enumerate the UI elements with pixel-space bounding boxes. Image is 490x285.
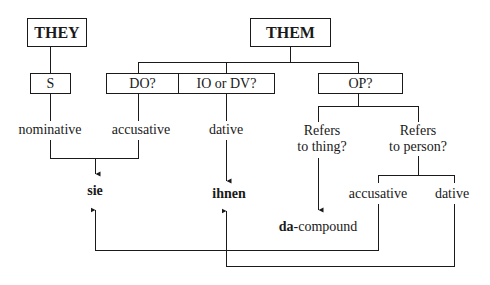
object-of-preposition-node: OP?	[319, 74, 403, 94]
da-suffix: -compound	[294, 219, 358, 234]
subject-label: S	[47, 76, 55, 91]
refers-thing-line1: Refers	[304, 123, 341, 138]
nominative-label: nominative	[19, 122, 82, 137]
ihnen-label: ihnen	[212, 186, 246, 201]
dative-label: dative	[209, 122, 243, 137]
they-label: THEY	[34, 24, 80, 41]
da-compound-label: da-compound	[279, 219, 358, 234]
person-dative-to-ihnen-arrow	[227, 204, 455, 267]
subject-node: S	[31, 74, 71, 94]
accusative-label: accusative	[112, 122, 170, 137]
dative-person-label: dative	[435, 186, 469, 201]
da-prefix: da	[279, 219, 294, 234]
direct-object-node: DO?	[107, 74, 179, 94]
object-of-preposition-label: OP?	[348, 76, 372, 91]
indirect-object-label: IO or DV?	[197, 76, 257, 91]
refers-person-line1: Refers	[400, 123, 437, 138]
indirect-object-node: IO or DV?	[179, 74, 275, 94]
refers-person-line2: to person?	[389, 139, 447, 154]
them-node: THEM	[251, 19, 331, 47]
accusative-person-label: accusative	[349, 186, 407, 201]
direct-object-label: DO?	[129, 76, 155, 91]
refers-thing-line2: to thing?	[297, 139, 346, 154]
german-pronoun-flow-diagram: THEY S nominative THEM DO? IO or DV? O	[0, 0, 490, 285]
them-label: THEM	[266, 24, 315, 41]
sie-label: sie	[87, 183, 103, 198]
they-node: THEY	[28, 19, 87, 47]
